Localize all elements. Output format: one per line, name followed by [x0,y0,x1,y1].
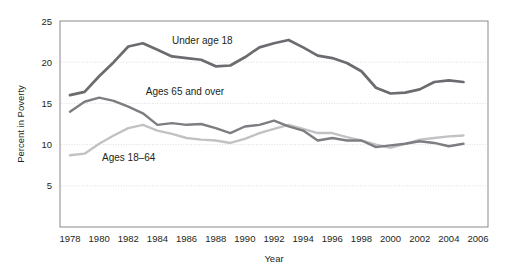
y-tick-label-20: 20 [41,57,52,68]
x-tick-label-2000: 2000 [380,233,401,244]
y-tick-label-10: 10 [41,139,52,150]
x-tick-label-1990: 1990 [234,233,255,244]
y-tick-label-25: 25 [41,16,52,27]
x-tick-label-1982: 1982 [118,233,139,244]
x-axis-title: Year [264,253,283,264]
y-tick-label-5: 5 [47,180,52,191]
series-line-ages-65-and-over [70,98,463,147]
x-tick-label-1980: 1980 [89,233,110,244]
x-tick-label-1984: 1984 [147,233,168,244]
x-tick-label-1996: 1996 [322,233,343,244]
x-tick-label-1988: 1988 [205,233,226,244]
x-tick-label-2002: 2002 [409,233,430,244]
y-axis-tick-labels: 510152025 [41,16,52,192]
gridlines [61,62,487,186]
chart-canvas: 510152025 197819801982198419861988199019… [0,0,517,269]
poverty-rate-line-chart: 510152025 197819801982198419861988199019… [0,0,517,269]
x-tick-label-2006: 2006 [467,233,488,244]
x-tick-label-1986: 1986 [176,233,197,244]
x-tick-label-1998: 1998 [351,233,372,244]
x-tick-label-1994: 1994 [293,233,314,244]
x-tick-label-2004: 2004 [438,233,459,244]
y-axis-title: Percent in Poverty [15,85,26,163]
series-label-under-age-18: Under age 18 [172,35,233,46]
x-tick-label-1978: 1978 [59,233,80,244]
series-label-ages-65-and-over: Ages 65 and over [146,86,225,97]
data-series-lines [70,40,463,155]
series-line-under-age-18 [70,40,463,95]
x-axis-tick-labels: 1978198019821984198619881990199219941996… [59,233,488,244]
x-tick-label-1992: 1992 [263,233,284,244]
series-line-ages-18-64 [70,125,463,155]
y-tick-label-15: 15 [41,98,52,109]
series-label-ages-18-64: Ages 18–64 [102,152,156,163]
